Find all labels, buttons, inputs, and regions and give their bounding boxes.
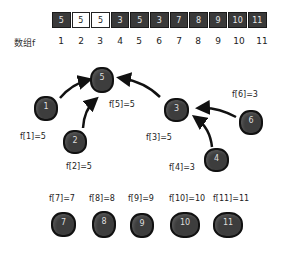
node-7: 7 bbox=[51, 212, 76, 237]
edge-2-to-5 bbox=[83, 100, 95, 128]
edge-4-to-3 bbox=[196, 118, 212, 147]
label-f9: f[9]=9 bbox=[128, 194, 154, 203]
edge-3-to-5 bbox=[121, 78, 160, 97]
node-3: 3 bbox=[164, 98, 189, 122]
node-10: 10 bbox=[170, 212, 200, 238]
edge-6-to-3 bbox=[200, 108, 236, 117]
node-4: 4 bbox=[204, 148, 229, 172]
label-f2: f[2]=5 bbox=[66, 162, 92, 171]
edge-1-to-5 bbox=[60, 80, 88, 98]
label-f1: f[1]=5 bbox=[20, 132, 46, 141]
label-f3: f[3]=5 bbox=[146, 133, 172, 142]
label-f7: f[7]=7 bbox=[49, 194, 75, 203]
label-f4: f[4]=3 bbox=[169, 163, 195, 172]
label-f10: f[10]=10 bbox=[169, 194, 205, 203]
label-f8: f[8]=8 bbox=[89, 194, 115, 203]
node-9: 9 bbox=[130, 213, 154, 238]
node-11: 11 bbox=[213, 212, 243, 238]
label-f6: f[6]=3 bbox=[232, 90, 258, 99]
node-2: 2 bbox=[63, 130, 87, 154]
node-5: 5 bbox=[90, 67, 114, 93]
node-8: 8 bbox=[92, 211, 116, 238]
label-f5: f[5]=5 bbox=[109, 100, 135, 109]
node-1: 1 bbox=[34, 96, 58, 121]
node-6: 6 bbox=[239, 110, 263, 135]
label-f11: f[11]=11 bbox=[213, 194, 249, 203]
